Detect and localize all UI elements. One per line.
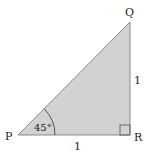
vertex-label-r: R	[134, 131, 143, 144]
angle-label-p: 45°	[34, 122, 52, 133]
triangle-pqr	[18, 22, 130, 135]
triangle-diagram: P Q R 1 1 45°	[0, 0, 144, 153]
vertex-label-q: Q	[125, 6, 134, 19]
side-label-pr: 1	[74, 140, 81, 153]
vertex-label-p: P	[5, 130, 13, 143]
side-label-qr: 1	[134, 74, 141, 87]
